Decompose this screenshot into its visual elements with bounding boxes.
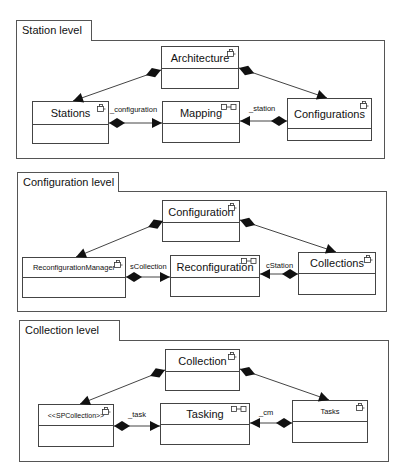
frame-title-configuration-level: Configuration level bbox=[17, 172, 119, 192]
connector-icon bbox=[241, 258, 257, 265]
class-box-configuration[interactable]: Configuration bbox=[162, 200, 240, 242]
edge-label: _configuration bbox=[110, 105, 157, 114]
connector-icon bbox=[231, 406, 247, 413]
connector-icon bbox=[221, 104, 237, 111]
class-icon bbox=[97, 104, 106, 112]
class-box-stations[interactable]: Stations bbox=[32, 101, 109, 144]
frame-title-station-level: Station level bbox=[16, 20, 92, 41]
class-name: Configurations bbox=[288, 99, 371, 129]
class-icon bbox=[356, 403, 365, 411]
class-icon bbox=[227, 49, 236, 57]
frame-title-collection-level: Collection level bbox=[19, 320, 120, 341]
class-icon bbox=[228, 203, 237, 211]
class-box-collections[interactable]: Collections bbox=[298, 252, 376, 295]
class-icon bbox=[360, 101, 369, 109]
class-box-architecture[interactable]: Architecture bbox=[161, 46, 239, 89]
class-box-reconfiguration[interactable]: Reconfiguration bbox=[170, 255, 260, 297]
class-icon bbox=[102, 407, 111, 415]
edge-label: cStation bbox=[266, 261, 293, 270]
class-icon bbox=[114, 260, 123, 268]
edge-label: sCollection bbox=[130, 262, 167, 271]
class-box-reconfigurationmanager[interactable]: ReconfigurationManager bbox=[22, 257, 126, 298]
class-icon bbox=[228, 352, 237, 360]
class-box-mapping[interactable]: Mapping bbox=[162, 101, 240, 143]
class-box-collection[interactable]: Collection bbox=[165, 349, 240, 391]
class-box-spcollection[interactable]: <<SPCollection>> bbox=[38, 404, 114, 447]
class-icon bbox=[364, 255, 373, 263]
class-box-configurations[interactable]: Configurations bbox=[287, 98, 372, 141]
edge-label: _task bbox=[128, 410, 146, 419]
class-name: ReconfigurationManager bbox=[23, 258, 125, 278]
edge-label: _station bbox=[249, 104, 275, 113]
edge-label: _cm bbox=[259, 408, 273, 417]
class-box-tasks[interactable]: Tasks bbox=[292, 400, 368, 443]
class-box-tasking[interactable]: Tasking bbox=[160, 403, 250, 445]
